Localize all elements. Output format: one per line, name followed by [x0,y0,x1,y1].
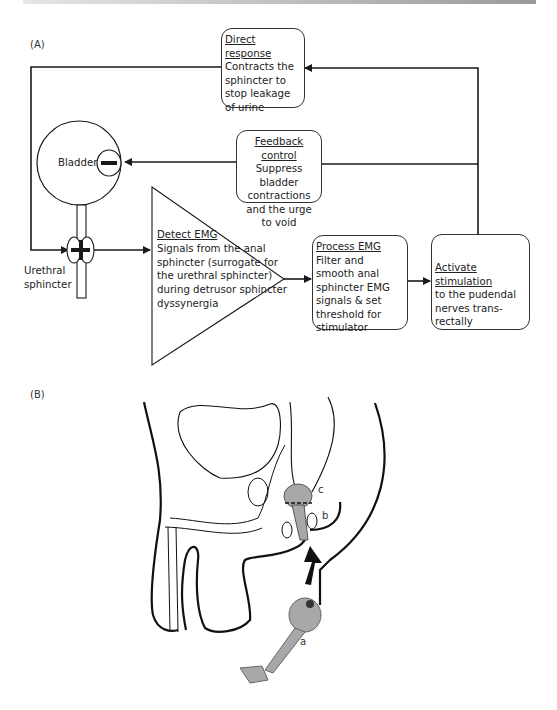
activate-stimulation-box: Activate stimulation to the pudendal ner… [431,234,530,330]
device-in-situ [282,484,317,540]
feedback-control-box: Feedback control Suppress bladder contra… [236,130,322,203]
activate-stimulation-title: Activate stimulation [435,261,526,288]
detect-emg-text: Detect EMG Signals from the anal sphinct… [157,228,287,311]
feedback-control-text: Suppress bladder contractions and the ur… [246,163,312,228]
label-b: b [322,510,328,521]
bladder-label: Bladder [58,156,97,170]
detect-emg-title: Detect EMG [157,228,287,242]
direct-response-title: Direct response [225,33,301,60]
direct-response-box: Direct response Contracts the sphincter … [221,28,305,108]
urethral-sphincter-label: Urethral sphincter [24,264,84,291]
process-emg-text: Filter and smooth anal sphincter EMG sig… [316,255,390,334]
detect-emg-body: Signals from the anal sphincter (surroga… [157,243,287,309]
process-emg-box: Process EMG Filter and smooth anal sphin… [312,235,408,330]
label-a: a [300,636,306,647]
label-c: c [318,484,324,495]
activate-stimulation-text: to the pudendal nerves trans-rectally [435,289,516,327]
process-emg-title: Process EMG [316,240,404,254]
feedback-control-title: Feedback control [240,135,318,162]
direct-response-text: Contracts the sphincter to stop leakage … [225,61,294,113]
anatomy-illustration [144,397,385,632]
device-a [240,598,321,683]
